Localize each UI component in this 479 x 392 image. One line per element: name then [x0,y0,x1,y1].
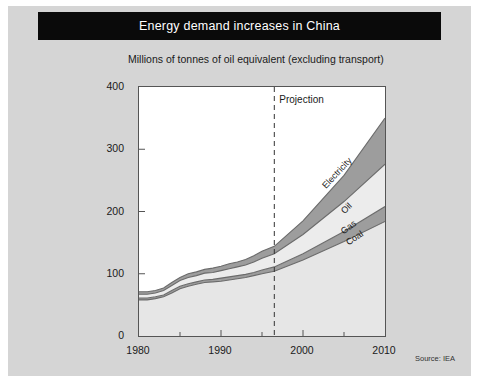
plot-area: 0100200300400 1980199020002010 Electrici… [130,78,386,338]
x-axis-tick-1990: 1990 [197,344,243,356]
x-axis-tick-1980: 1980 [115,344,161,356]
y-axis-tick-200: 200 [84,205,124,217]
y-axis-tick-100: 100 [84,267,124,279]
y-axis-tick-400: 400 [84,80,124,92]
page-title: Energy demand increases in China [139,19,340,33]
chart-subtitle: Millions of tonnes of oil equivalent (ex… [128,53,384,65]
source-note: Source: IEA [415,354,455,363]
figure-panel: Energy demand increases in China Million… [8,6,471,376]
x-axis-tick-2000: 2000 [279,344,325,356]
projection-annotation: Projection [279,94,323,105]
chart-title-bar: Energy demand increases in China [38,12,441,40]
y-axis-tick-0: 0 [84,329,124,341]
x-axis-tick-2010: 2010 [361,344,407,356]
y-axis-tick-300: 300 [84,142,124,154]
